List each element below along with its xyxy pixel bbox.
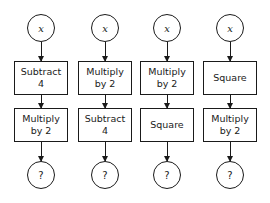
output-node: ? [91,161,119,189]
input-node: x [27,14,55,42]
input-node: x [91,14,119,42]
arrow-down-icon [167,42,168,61]
output-node: ? [153,161,181,189]
input-node: x [216,14,244,42]
operation-box: Multiply by 2 [140,61,194,95]
arrow-down-icon [105,142,106,161]
operation-box: Square [203,61,257,95]
flow-column-2: x Multiply by 2 Subtract 4 ? [75,0,135,203]
operation-box: Multiply by 2 [78,61,132,95]
arrow-down-icon [230,95,231,108]
operation-box: Square [140,108,194,142]
arrow-down-icon [230,42,231,61]
flow-column-1: x Subtract 4 Multiply by 2 ? [11,0,71,203]
arrow-down-icon [167,95,168,108]
input-node: x [153,14,181,42]
operation-box: Multiply by 2 [14,108,68,142]
arrow-down-icon [105,42,106,61]
arrow-down-icon [167,142,168,161]
arrow-down-icon [41,142,42,161]
output-node: ? [216,161,244,189]
operation-box: Subtract 4 [78,108,132,142]
flow-column-3: x Multiply by 2 Square ? [137,0,197,203]
operation-box: Multiply by 2 [203,108,257,142]
arrow-down-icon [41,95,42,108]
arrow-down-icon [41,42,42,61]
output-node: ? [27,161,55,189]
arrow-down-icon [230,142,231,161]
flow-column-4: x Square Multiply by 2 ? [200,0,260,203]
operation-box: Subtract 4 [14,61,68,95]
arrow-down-icon [105,95,106,108]
